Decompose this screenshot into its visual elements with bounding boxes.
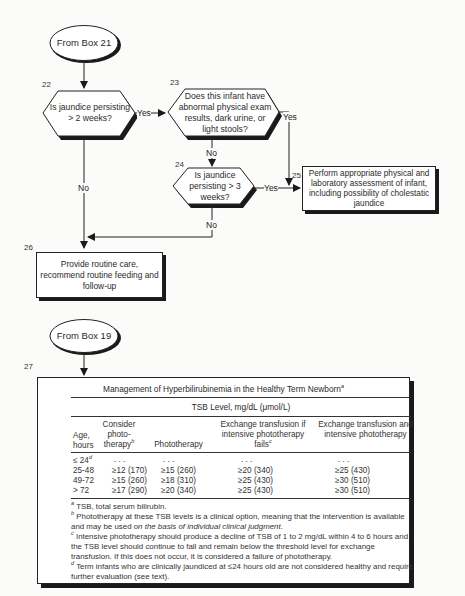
footnote-d: d Term infants who are clinically jaundi… [71,562,416,582]
decision-node-22: Is jaundice persisting > 2 weeks? [48,95,132,131]
rule [71,397,411,398]
management-table-box: Management of Hyperbilirubinemia in the … [37,377,410,584]
rule [71,416,411,417]
start-node-from-box-21: From Box 21 [52,37,116,49]
rule [71,452,411,453]
decision-node-24: Is jaundice persisting > 3 weeks? [183,169,247,203]
decision-node-23: Does this infant have abnormal physical … [176,90,274,136]
node-number-24: 24 [175,160,184,169]
start-node-from-box-19: From Box 19 [52,330,116,342]
tsb-level-header: TSB Level, mg/dL (μmol/L) [71,402,411,412]
node-number-23: 23 [170,78,179,87]
node-number-26: 26 [24,243,33,252]
col-header-age: Age, hours [73,431,99,451]
col-header-exchange-and-intensive: Exchange transfusion and intensive photo… [318,420,413,440]
footnote-a: a TSB, total serum bilirubin. [71,502,416,512]
rule [71,498,411,499]
node-number-22: 22 [42,80,51,89]
edge-label-23-yes: Yes [283,112,297,122]
col-header-consider-phototherapy: Consider photo-therapyb [100,420,138,450]
table-title: Management of Hyperbilirubinemia in the … [38,384,409,394]
process-node-25: Perform appropriate physical and laborat… [302,166,436,211]
process-node-26-text: Provide routine care, recommend routine … [39,255,160,295]
process-node-26: Provide routine care, recommend routine … [36,252,163,298]
edge-label-24-no: No [206,220,217,230]
node-number-27: 27 [24,362,33,371]
footnote-b: b Phototherapy at these TSB levels is a … [71,512,416,532]
col-header-exchange-if-fails: Exchange transfusion if intensive photot… [213,420,313,450]
col-header-phototherapy: Phototherapy [146,440,211,450]
edge-label-24-yes: Yes [264,183,278,193]
edge-label-22-yes: Yes [137,108,151,118]
process-node-25-text: Perform appropriate physical and laborat… [305,169,433,209]
node-number-25: 25 [292,171,301,180]
edge-label-22-no: No [78,183,89,193]
footnote-c: c Intensive phototherapy should produce … [71,532,416,562]
edge-label-23-no: No [206,148,217,158]
